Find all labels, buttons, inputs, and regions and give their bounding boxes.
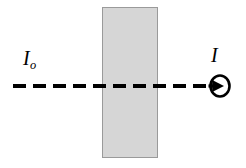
transmitted-intensity-label: I: [211, 45, 218, 65]
physics-diagram-figure: Io I: [0, 0, 246, 168]
detector-symbol: [209, 76, 230, 97]
incident-intensity-symbol: I: [23, 47, 30, 69]
incident-intensity-subscript: o: [30, 58, 36, 72]
absorbing-slab-rectangle: [103, 8, 158, 158]
detector-arrow-tail: [209, 84, 214, 87]
diagram-canvas: [0, 0, 246, 168]
incident-intensity-label: Io: [23, 48, 36, 68]
transmitted-intensity-symbol: I: [211, 44, 218, 66]
